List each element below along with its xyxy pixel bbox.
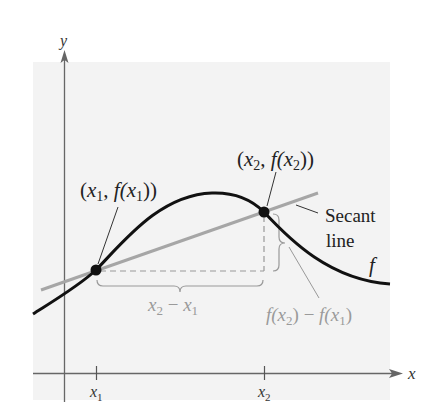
- x-axis-label: x: [407, 364, 416, 383]
- point-x1: [91, 265, 102, 276]
- point-x2: [259, 207, 270, 218]
- secant-label-line2: line: [326, 230, 355, 251]
- secant-line-figure: y x x1 x2: [0, 0, 437, 412]
- rise-label: f(x2) − f(x1): [266, 304, 352, 328]
- secant-label-line1: Secant: [325, 205, 376, 226]
- point1-label: (x1, f(x1)): [80, 178, 157, 204]
- point2-label: (x2, f(x2)): [237, 147, 314, 173]
- y-axis-label: y: [58, 32, 68, 50]
- run-label: x2 − x1: [147, 294, 198, 318]
